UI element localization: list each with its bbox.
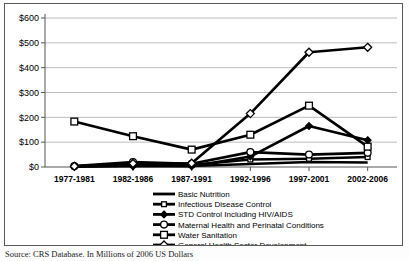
data-point-3-4 [306,151,313,158]
x-axis-tick-label: 1987-1991 [171,174,212,184]
y-axis-tick-label: $500 [19,38,39,48]
data-point-5-5 [364,43,372,51]
x-axis-tick-label: 1992-1996 [230,174,271,184]
data-point-4-5 [364,143,371,150]
data-point-3-3 [247,149,254,156]
y-axis-tick-label: $200 [19,113,39,123]
x-axis-tick-label: 2002-2006 [347,174,388,184]
data-point-4-2 [188,146,195,153]
legend-marker-2 [161,211,168,218]
legend-label-5: General Health Sector Development [178,241,307,245]
legend-label-2: STD Control Including HIV/AIDS [178,210,293,219]
y-axis-tick-label: $100 [19,137,39,147]
x-axis-tick-label: 1977-1981 [54,174,95,184]
y-axis-tick-label: $600 [19,13,39,23]
legend-marker-3 [161,221,168,228]
x-axis-tick-label: 1997-2001 [289,174,330,184]
legend-marker-1 [162,202,167,207]
figure-container: $0$100$200$300$400$500$6001977-19811982-… [0,0,409,261]
legend-marker-4 [161,231,168,238]
chart-frame: $0$100$200$300$400$500$6001977-19811982-… [4,3,403,246]
line-chart-plot: $0$100$200$300$400$500$6001977-19811982-… [5,4,402,245]
legend-marker-5 [160,241,168,245]
legend-label-0: Basic Nutrition [178,190,230,199]
x-axis-tick-label: 1982-1986 [113,174,154,184]
data-point-4-4 [306,102,313,109]
source-caption: Source: CRS Database. In Millions of 200… [5,248,405,259]
legend-label-4: Water Sanitation [178,231,237,240]
legend-label-3: Maternal Health and Perinatal Conditions [178,221,324,230]
y-axis-tick-label: $300 [19,88,39,98]
y-axis-tick-label: $400 [19,63,39,73]
series-line-4 [74,106,367,150]
legend-label-1: Infectious Disease Control [178,200,272,209]
data-point-4-1 [130,133,137,140]
y-axis-tick-label: $0 [29,162,39,172]
data-point-4-0 [71,118,78,125]
series-line-5 [74,47,367,166]
data-point-4-3 [247,131,254,138]
